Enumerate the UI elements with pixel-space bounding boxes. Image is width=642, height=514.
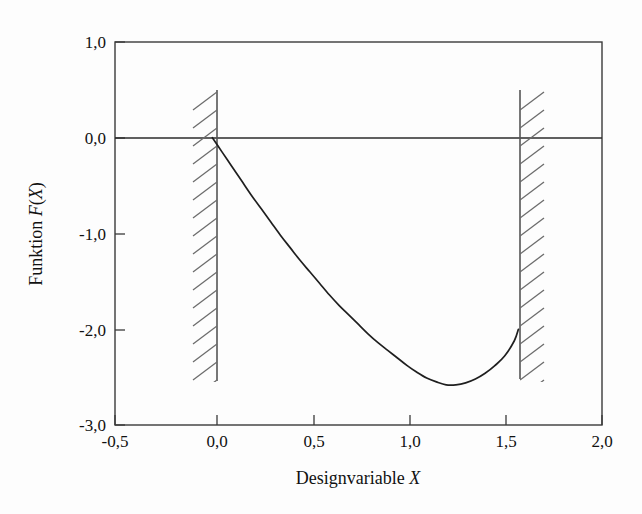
upper-bound-constraint — [520, 90, 544, 398]
x-tick-label: 0,5 — [303, 432, 324, 451]
plot-frame — [115, 42, 602, 425]
y-tick-label: -1,0 — [79, 225, 106, 244]
x-tick-label: 1,5 — [495, 432, 516, 451]
y-axis-ticks — [115, 42, 125, 425]
chart-figure: 1,0 0,0 -1,0 -2,0 -3,0 -0,5 0,0 0,5 1,0 … — [0, 0, 642, 514]
y-tick-label: 0,0 — [85, 129, 106, 148]
y-axis-title: Funktion F(X) — [26, 182, 47, 286]
y-tick-label: -2,0 — [79, 321, 106, 340]
x-tick-label: 2,0 — [591, 432, 612, 451]
x-tick-labels: -0,5 0,0 0,5 1,0 1,5 2,0 — [102, 432, 613, 451]
chart-plot-area: 1,0 0,0 -1,0 -2,0 -3,0 -0,5 0,0 0,5 1,0 … — [0, 0, 642, 514]
y-tick-label: 1,0 — [85, 33, 106, 52]
x-tick-label: 0,0 — [206, 432, 227, 451]
lower-bound-constraint — [193, 90, 217, 398]
x-axis-title: Designvariable X — [296, 468, 421, 488]
x-tick-label: 1,0 — [399, 432, 420, 451]
y-tick-labels: 1,0 0,0 -1,0 -2,0 -3,0 — [79, 33, 106, 435]
function-curve — [212, 138, 518, 385]
x-tick-label: -0,5 — [102, 432, 129, 451]
x-axis-ticks — [115, 415, 602, 425]
